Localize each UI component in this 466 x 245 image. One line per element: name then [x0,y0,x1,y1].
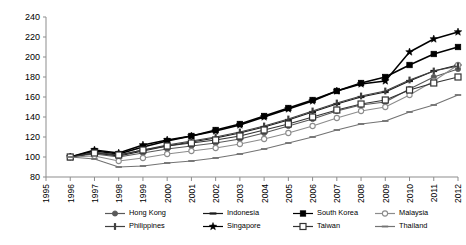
legend-item-malaysia[interactable]: Malaysia [374,207,444,220]
data-point-open-circle [286,130,291,135]
data-point-open-circle [237,141,242,146]
data-point-open-square [310,114,316,120]
series-lines [66,28,461,168]
data-point-open-circle [213,145,218,150]
legend-label: Hong Kong [129,210,166,216]
data-point-open-circle [189,148,194,153]
legend-item-indonesia[interactable]: Indonesia [202,207,292,220]
data-point-vertical-bar [336,100,338,107]
data-point-horizontal-line [116,166,122,168]
x-tick-label: 2012 [453,184,463,203]
x-tick-label: 1995 [41,184,51,203]
x-tick-label: 1996 [66,184,76,203]
data-point-vertical-bar [384,88,386,95]
series-philippines [69,63,459,161]
data-point-open-circle [165,151,170,156]
data-point-horizontal-line [212,157,218,159]
x-tick-label: 2006 [308,184,318,203]
x-tick-label: 2002 [211,184,221,203]
data-point-horizontal-dash [210,212,217,214]
y-tick-label: 80 [30,172,40,182]
legend-item-taiwan[interactable]: Taiwan [292,220,374,233]
horizontal-line-icon [374,221,396,232]
data-point-open-square [455,74,461,80]
data-point-star [209,223,217,230]
data-point-open-square [188,140,194,146]
y-tick-label: 220 [25,32,40,42]
legend-label: Thailand [399,223,427,229]
data-point-open-square [91,150,97,156]
data-point-horizontal-line [261,148,267,150]
legend-item-philippines[interactable]: Philippines [104,220,202,233]
data-point-open-square [140,147,146,153]
data-point-horizontal-line [334,129,340,131]
data-point-horizontal-line [188,160,194,162]
data-point-horizontal-line [431,104,437,106]
data-point-open-square [334,107,340,113]
data-point-open-square [261,127,267,133]
data-point-filled-square [407,62,412,67]
data-point-horizontal-line [91,158,97,160]
star-icon [202,221,224,232]
data-point-open-square [431,80,437,86]
data-point-open-square [300,224,306,230]
x-tick-label: 2010 [405,184,415,203]
y-tick-label: 180 [25,72,40,82]
data-point-horizontal-line [285,142,291,144]
legend-label: South Korea [317,210,358,216]
data-point-filled-square [455,44,460,49]
legend-item-thailand[interactable]: Thailand [374,220,444,233]
data-point-open-circle [358,108,363,113]
y-tick-label: 160 [25,92,40,102]
legend-label: Singapore [227,223,261,229]
y-tick-label: 100 [25,152,40,162]
line-chart: 80100120140160180200220240 1995199619971… [0,0,466,245]
data-point-vertical-bar [457,63,459,70]
horizontal-dash-icon [202,208,224,219]
data-point-open-circle [310,123,315,128]
data-point-vertical-bar [408,77,410,84]
data-point-horizontal-line [406,111,412,113]
data-point-open-circle [382,211,387,216]
filled-circle-icon [104,208,126,219]
data-point-open-circle [262,136,267,141]
x-tick-label: 2008 [356,184,366,203]
x-tick-label: 2005 [284,184,294,203]
data-point-open-square [213,137,219,143]
open-circle-icon [374,208,396,219]
data-point-open-square [358,101,364,107]
legend-label: Malaysia [399,210,428,216]
data-point-horizontal-line [140,165,146,167]
y-tick-label: 140 [25,112,40,122]
data-point-vertical-bar [311,108,313,115]
data-point-horizontal-line [382,226,388,228]
y-axis: 80100120140160180200220240 [25,12,46,182]
data-point-open-circle [140,155,145,160]
data-point-open-square [382,97,388,103]
data-point-horizontal-line [382,120,388,122]
x-axis: 1995199619971998199920002001200220032004… [41,177,463,203]
x-tick-label: 2011 [429,184,439,203]
data-point-open-square [407,87,413,93]
data-point-vertical-bar [114,223,116,230]
vertical-bar-icon [104,221,126,232]
data-point-horizontal-line [164,162,170,164]
legend-label: Taiwan [317,223,340,229]
y-tick-label: 200 [25,52,40,62]
series-indonesia [67,64,462,158]
open-square-icon [292,221,314,232]
data-point-open-square [116,152,122,158]
legend-item-south-korea[interactable]: South Korea [292,207,374,220]
data-point-filled-square [300,211,305,216]
x-tick-label: 1999 [138,184,148,203]
legend-item-hong-kong[interactable]: Hong Kong [104,207,202,220]
y-tick-label: 120 [25,132,40,142]
data-point-open-square [164,143,170,149]
x-tick-label: 2004 [260,184,270,203]
legend-item-singapore[interactable]: Singapore [202,220,292,233]
x-tick-label: 2001 [187,184,197,203]
data-point-vertical-bar [433,68,435,75]
x-tick-label: 2007 [332,184,342,203]
x-tick-label: 1998 [114,184,124,203]
data-point-open-square [237,133,243,139]
